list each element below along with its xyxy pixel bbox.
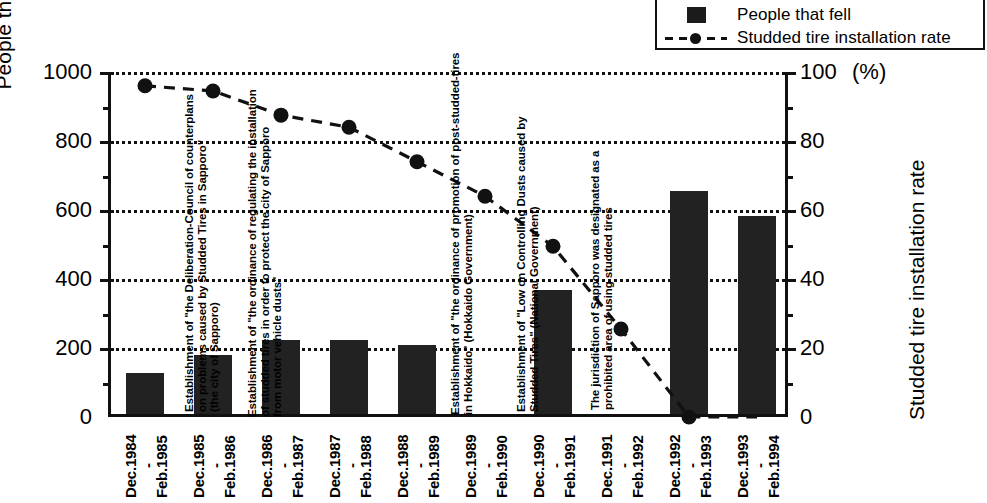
line-marker-6 — [546, 239, 561, 254]
x-tick-label-6: Dec.1987 — [326, 435, 343, 498]
right-tick-80: 80 — [800, 128, 824, 154]
right-tick-100: 100 — [800, 59, 837, 85]
left-tick-1000: 1000 — [43, 59, 92, 85]
x-tick-label-19: Feb.1994 — [765, 435, 782, 498]
left-tick-800: 800 — [55, 128, 92, 154]
anno-line: Establishment of "the ordinance of regul… — [246, 89, 259, 417]
anno-line: from motor vehicle dusts" — [271, 89, 284, 417]
anno-line: prohibited area of using studded tires — [602, 151, 615, 410]
x-tick-label-7: Feb.1988 — [357, 435, 374, 498]
left-major-tick-800 — [100, 141, 111, 144]
legend-item-studded-tire-rate: Studded tire installation rate — [663, 26, 977, 49]
anno-national-law: Establishment of "Low on Controlling Dus… — [515, 117, 540, 412]
x-tick-label-18: Dec.1993 — [734, 435, 751, 498]
right-axis-unit: (%) — [852, 59, 886, 85]
dashed-line-dot-icon — [663, 31, 729, 45]
right-tick-0: 0 — [800, 404, 812, 430]
x-tick-label-5: Feb.1987 — [289, 435, 306, 498]
chart-figure: People that fell Studded tire installati… — [0, 0, 987, 503]
x-tick-label-9: Feb.1989 — [425, 435, 442, 498]
anno-line: of studded tires in order to protect the… — [259, 89, 272, 417]
anno-line: The jurisdiction of Sapporo was designat… — [589, 151, 602, 410]
x-tick-label-4: Dec.1986 — [258, 435, 275, 498]
anno-line: in Hokkaido" (Hokkaido Government) — [462, 53, 475, 415]
right-tick-20: 20 — [800, 335, 824, 361]
left-tick-0: 0 — [80, 404, 92, 430]
line-marker-7 — [614, 322, 629, 337]
chart-legend: People that fell Studded tire installati… — [655, 0, 985, 50]
left-major-tick-400 — [100, 279, 111, 282]
anno-prohibited-area: The jurisdiction of Sapporo was designat… — [589, 151, 614, 410]
legend-label-studded-tire-rate: Studded tire installation rate — [729, 28, 951, 48]
left-tick-400: 400 — [55, 266, 92, 292]
anno-sapporo-ordinance: Establishment of "the ordinance of regul… — [246, 89, 284, 417]
anno-line: Establishment of "the ordinance of promo… — [449, 53, 462, 415]
line-marker-0 — [138, 78, 153, 93]
filled-square-icon — [663, 7, 729, 23]
x-tick-label-1: Feb.1985 — [153, 435, 170, 498]
right-tick-40: 40 — [800, 266, 824, 292]
x-tick-label-0: Dec.1984 — [122, 435, 139, 498]
x-tick-label-16: Dec.1992 — [666, 435, 683, 498]
x-tick-label-14: Dec.1991 — [598, 435, 615, 498]
anno-deliberation-council: Establishment of "the Deliberation-Counc… — [183, 94, 221, 412]
anno-hokkaido-ordinance: Establishment of "the ordinance of promo… — [449, 53, 474, 415]
left-tick-200: 200 — [55, 335, 92, 361]
left-major-tick-200 — [100, 348, 111, 351]
left-minor-tick-700 — [103, 176, 111, 179]
left-major-tick-1000 — [100, 72, 111, 75]
plot-area: Establishment of "the Deliberation-Counc… — [108, 72, 788, 417]
left-minor-tick-100 — [103, 383, 111, 386]
line-marker-4 — [410, 154, 425, 169]
left-axis-title: People that fell — [0, 0, 16, 150]
x-tick-label-13: Feb.1991 — [561, 435, 578, 498]
x-tick-label-11: Feb.1990 — [493, 435, 510, 498]
anno-line: on problems caused by Studded Tires in S… — [196, 94, 209, 412]
left-major-tick-600 — [100, 210, 111, 213]
right-tick-60: 60 — [800, 197, 824, 223]
x-axis-tick-labels: Dec.1984-Feb.1985Dec.1985-Feb.1986Dec.19… — [108, 420, 788, 503]
legend-item-people-that-fell: People that fell — [663, 3, 977, 26]
left-tick-600: 600 — [55, 197, 92, 223]
line-marker-5 — [478, 189, 493, 204]
x-tick-label-15: Feb.1992 — [629, 435, 646, 498]
anno-line: (the city of Sapporo) — [208, 94, 221, 412]
anno-line: Studded Tires" (National Government) — [528, 117, 541, 412]
left-minor-tick-300 — [103, 314, 111, 317]
left-minor-tick-500 — [103, 245, 111, 248]
x-tick-label-10: Dec.1989 — [462, 435, 479, 498]
right-axis-title: Studded tire installation rate — [905, 60, 929, 420]
left-minor-tick-900 — [103, 107, 111, 110]
anno-line: Establishment of "Low on Controlling Dus… — [515, 117, 528, 412]
anno-line: Establishment of "the Deliberation-Counc… — [183, 94, 196, 412]
x-tick-label-3: Feb.1986 — [221, 435, 238, 498]
x-tick-label-2: Dec.1985 — [190, 435, 207, 498]
line-marker-3 — [342, 120, 357, 135]
legend-label-people-that-fell: People that fell — [729, 5, 851, 25]
x-tick-label-17: Feb.1993 — [697, 435, 714, 498]
x-tick-label-8: Dec.1988 — [394, 435, 411, 498]
x-tick-label-12: Dec.1990 — [530, 435, 547, 498]
